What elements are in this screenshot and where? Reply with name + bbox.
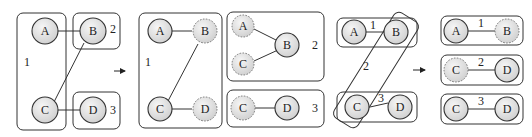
node-b-label: B bbox=[503, 24, 511, 38]
node-c-label: C bbox=[41, 103, 49, 117]
group-3-label: 3 bbox=[312, 101, 318, 115]
group-1-label: 1 bbox=[478, 16, 484, 30]
node-d-label: D bbox=[396, 100, 405, 114]
node-d-label: D bbox=[89, 103, 98, 117]
group-2-label: 2 bbox=[363, 59, 369, 73]
node-b-label: B bbox=[89, 24, 97, 38]
group-3-label: 3 bbox=[110, 103, 116, 117]
panel-2-before: A B C D 1 2 3 bbox=[331, 10, 420, 130]
node-a-label: A bbox=[239, 19, 248, 33]
node-d-label: D bbox=[503, 102, 512, 116]
group-1-label: 1 bbox=[145, 55, 151, 69]
diagram-canvas: A B C D 1 2 3 A B C D 1 A B C 2 bbox=[0, 0, 532, 137]
node-b-label: B bbox=[201, 24, 209, 38]
edge-b-c bbox=[54, 43, 84, 102]
node-b-label: B bbox=[283, 38, 291, 52]
group-3-label: 3 bbox=[478, 94, 484, 108]
node-c-label: C bbox=[156, 102, 164, 116]
node-a-label: A bbox=[41, 24, 50, 38]
node-a-label: A bbox=[452, 24, 461, 38]
panel-1-after: A B C D 1 A B C 2 C D 3 bbox=[139, 12, 324, 128]
node-a-label: A bbox=[350, 25, 359, 39]
group-1-label: 1 bbox=[370, 18, 376, 32]
group-3-label: 3 bbox=[378, 91, 384, 105]
edge-b-c bbox=[168, 44, 198, 101]
edge-a-b bbox=[254, 29, 278, 41]
node-c-label: C bbox=[452, 102, 460, 116]
node-d-label: D bbox=[201, 102, 210, 116]
node-c-label: C bbox=[452, 63, 460, 77]
panel-2-after: A B 1 C D 2 C D 3 bbox=[441, 16, 523, 124]
node-b-label: B bbox=[392, 25, 400, 39]
group-2-label: 2 bbox=[478, 55, 484, 69]
edge-c-b bbox=[254, 50, 278, 61]
group-2-label: 2 bbox=[110, 22, 116, 36]
node-c-label: C bbox=[239, 57, 247, 71]
node-c-label: C bbox=[239, 101, 247, 115]
node-d-label: D bbox=[283, 101, 292, 115]
node-c-label: C bbox=[353, 100, 361, 114]
group-2-label: 2 bbox=[312, 38, 318, 52]
node-a-label: A bbox=[156, 24, 165, 38]
node-d-label: D bbox=[503, 63, 512, 77]
panel-1-before: A B C D 1 2 3 bbox=[17, 13, 120, 130]
group-1-label: 1 bbox=[24, 55, 30, 69]
